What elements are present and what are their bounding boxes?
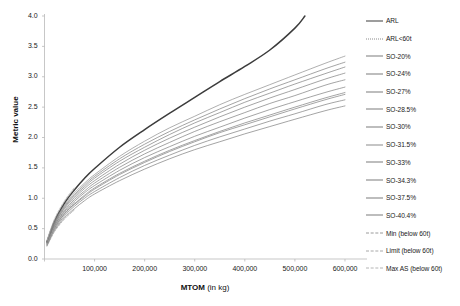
legend-label: SO-28.5% (386, 106, 416, 113)
legend-label: SO-33% (386, 159, 411, 166)
legend-swatch-icon (366, 105, 383, 113)
legend-item[interactable]: SO-34.3% (366, 171, 460, 189)
legend-swatch-icon (366, 52, 383, 60)
legend-swatch-icon (366, 247, 383, 255)
y-axis-tick-label: 1.0 (14, 194, 38, 201)
legend-swatch-icon (366, 176, 383, 184)
legend-label: SO-30% (386, 123, 411, 130)
series-line (47, 80, 345, 243)
x-axis-tick-label: 600,000 (322, 265, 368, 272)
legend-swatch-icon (366, 17, 383, 25)
legend-swatch-icon (366, 158, 383, 166)
legend-label: Min (below 60t) (386, 230, 430, 237)
series-lines (47, 16, 345, 246)
series-line (47, 67, 345, 242)
x-axis-tick-label: 100,000 (72, 265, 118, 272)
chart-container: 0.00.51.01.52.02.53.03.54.0 Metric value… (0, 0, 460, 306)
series-line (47, 73, 345, 243)
series-line (47, 62, 345, 241)
legend-item[interactable]: SO-20% (366, 47, 460, 65)
legend-swatch-icon (366, 194, 383, 202)
x-axis-title: MTOM (in kg) (120, 283, 290, 292)
legend-item[interactable]: SO-40.4% (366, 207, 460, 225)
legend-item[interactable]: SO-28.5% (366, 100, 460, 118)
legend-swatch-icon (366, 229, 383, 237)
legend-label: SO-20% (386, 53, 411, 60)
x-axis-tick-label: 300,000 (172, 265, 218, 272)
series-line (47, 93, 345, 244)
series-line (47, 94, 345, 244)
legend-item[interactable]: SO-27% (366, 83, 460, 101)
legend-item[interactable]: Limit (below 60t) (366, 242, 460, 260)
y-axis-tick-label: 4.0 (14, 12, 38, 19)
legend-label: SO-37.5% (386, 194, 416, 201)
x-axis-tick-label: 500,000 (272, 265, 318, 272)
series-line (47, 87, 345, 243)
legend-item[interactable]: Min (below 60t) (366, 224, 460, 242)
series-line (47, 16, 305, 242)
legend-label: SO-24% (386, 70, 411, 77)
legend-item[interactable]: Max AS (below 60t) (366, 260, 460, 278)
legend-item[interactable]: SO-30% (366, 118, 460, 136)
x-axis-title-main: MTOM (181, 283, 205, 292)
legend-label: ARL<60t (386, 35, 412, 42)
legend-swatch-icon (366, 35, 383, 43)
x-axis-tick-label: 400,000 (222, 265, 268, 272)
legend-label: SO-34.3% (386, 177, 416, 184)
chart-legend: ARLARL<60tSO-20%SO-24%SO-27%SO-28.5%SO-3… (366, 12, 460, 277)
legend-item[interactable]: SO-37.5% (366, 189, 460, 207)
y-axis-tick-label: 0.0 (14, 255, 38, 262)
legend-label: Max AS (below 60t) (386, 265, 442, 272)
legend-swatch-icon (366, 264, 383, 272)
legend-item[interactable]: ARL (366, 12, 460, 30)
legend-label: SO-40.4% (386, 212, 416, 219)
legend-label: SO-27% (386, 88, 411, 95)
series-line (47, 100, 345, 245)
legend-item[interactable]: SO-24% (366, 65, 460, 83)
legend-item[interactable]: SO-31.5% (366, 136, 460, 154)
figure-caption (8, 298, 448, 306)
legend-swatch-icon (366, 70, 383, 78)
series-line (47, 56, 345, 241)
legend-swatch-icon (366, 123, 383, 131)
legend-swatch-icon (366, 88, 383, 96)
y-axis-title: Metric value (11, 85, 20, 155)
legend-swatch-icon (366, 141, 383, 149)
legend-label: Limit (below 60t) (386, 247, 434, 254)
legend-label: SO-31.5% (386, 141, 416, 148)
y-axis-tick-label: 0.5 (14, 224, 38, 231)
y-axis-tick-label: 3.5 (14, 42, 38, 49)
legend-item[interactable]: SO-33% (366, 154, 460, 172)
y-axis-tick-label: 3.0 (14, 72, 38, 79)
x-axis-title-unit: (in kg) (205, 283, 229, 292)
y-axis-tick-label: 1.5 (14, 163, 38, 170)
x-axis-tick-label: 200,000 (122, 265, 168, 272)
legend-swatch-icon (366, 211, 383, 219)
legend-label: ARL (386, 17, 399, 24)
legend-item[interactable]: ARL<60t (366, 30, 460, 48)
